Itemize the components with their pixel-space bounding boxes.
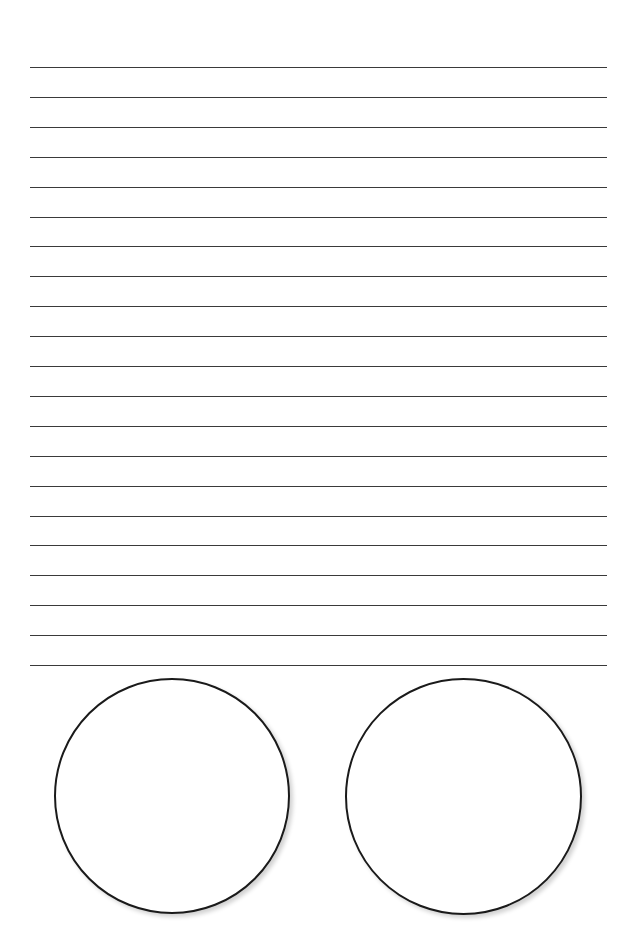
writing-line [30, 97, 607, 98]
writing-line [30, 127, 607, 128]
writing-line [30, 246, 607, 247]
writing-line [30, 486, 607, 487]
right-circle [345, 678, 582, 915]
writing-line [30, 516, 607, 517]
writing-line [30, 306, 607, 307]
writing-line [30, 456, 607, 457]
writing-line [30, 665, 607, 666]
writing-line [30, 396, 607, 397]
writing-line [30, 545, 607, 546]
writing-line [30, 366, 607, 367]
writing-line [30, 187, 607, 188]
writing-line [30, 217, 607, 218]
writing-line [30, 276, 607, 277]
writing-line [30, 336, 607, 337]
writing-line [30, 426, 607, 427]
writing-line [30, 635, 607, 636]
writing-line [30, 575, 607, 576]
writing-line [30, 605, 607, 606]
writing-line [30, 157, 607, 158]
writing-line [30, 67, 607, 68]
left-circle [54, 678, 290, 914]
